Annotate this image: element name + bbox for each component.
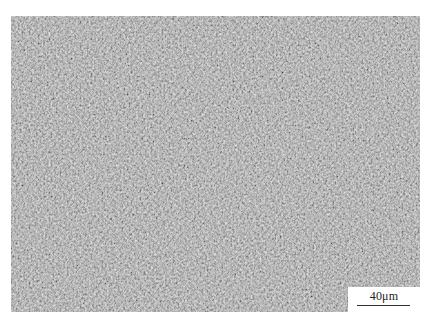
microstructure-texture [11,16,420,312]
micrograph-image [11,16,420,312]
scale-bar: 40μm [348,287,420,312]
scale-bar-label: 40μm [348,289,420,304]
scale-bar-line [357,305,410,306]
